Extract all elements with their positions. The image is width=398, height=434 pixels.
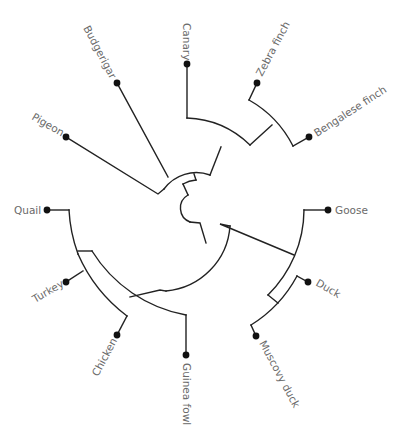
root-stem-bottom xyxy=(190,222,206,243)
label-quail: Quail xyxy=(14,204,41,216)
quail-arc xyxy=(69,210,78,254)
guinea-fowl-tip xyxy=(183,352,190,359)
bengalese-finch-tip xyxy=(306,134,313,141)
label-goose: Goose xyxy=(335,204,368,216)
label-bengalese-finch: Bengalese finch xyxy=(312,83,389,139)
finch-stem xyxy=(250,125,272,145)
pigeon-branch xyxy=(66,137,164,194)
pigeon-tip xyxy=(63,134,70,141)
budgerigar-branch xyxy=(117,83,168,177)
label-chicken: Chicken xyxy=(89,336,119,378)
inner-stub xyxy=(194,174,196,180)
root-branches xyxy=(164,173,230,291)
galloanserae-arc xyxy=(166,226,230,291)
canary-tip xyxy=(184,61,191,68)
label-guinea-fowl: Guinea fowl xyxy=(181,363,193,425)
waterfowl-clade xyxy=(220,207,331,340)
chicken-tip xyxy=(114,332,121,339)
landfowl-arc xyxy=(92,251,186,315)
root-arc xyxy=(180,195,190,222)
zebra-finch-tip xyxy=(254,80,261,87)
budgerigar-pigeon xyxy=(63,80,168,194)
neoaves-arc xyxy=(164,173,210,189)
waterfowl-stem xyxy=(220,224,294,255)
songbird-clade xyxy=(184,61,313,175)
root-stem-top xyxy=(183,184,188,195)
muscovy-duck-tip xyxy=(253,333,260,340)
goose-tip xyxy=(325,207,332,214)
songbird-stem xyxy=(210,147,221,175)
turkey-chicken-arc xyxy=(78,254,127,316)
label-muscovy-duck: Muscovy duck xyxy=(257,338,303,410)
phylogenetic-tree: Canary Zebra finch Bengalese finch Goose… xyxy=(0,0,398,434)
label-turkey: Turkey xyxy=(29,277,65,305)
label-duck: Duck xyxy=(314,276,344,300)
quail-tip xyxy=(44,207,51,214)
label-budgerigar: Budgerigar xyxy=(81,23,119,81)
waterfowl-arc xyxy=(268,210,304,295)
label-pigeon: Pigeon xyxy=(30,110,67,138)
duck-stem xyxy=(268,295,278,303)
landfowl-clade xyxy=(44,207,190,359)
landfowl-stem xyxy=(130,290,166,297)
duck-tip xyxy=(305,279,312,286)
label-canary: Canary xyxy=(181,23,193,60)
budgerigar-tip xyxy=(114,80,121,87)
label-zebra-finch: Zebra finch xyxy=(253,19,292,78)
inner-arc xyxy=(183,180,196,184)
songbird-arc xyxy=(187,118,250,145)
